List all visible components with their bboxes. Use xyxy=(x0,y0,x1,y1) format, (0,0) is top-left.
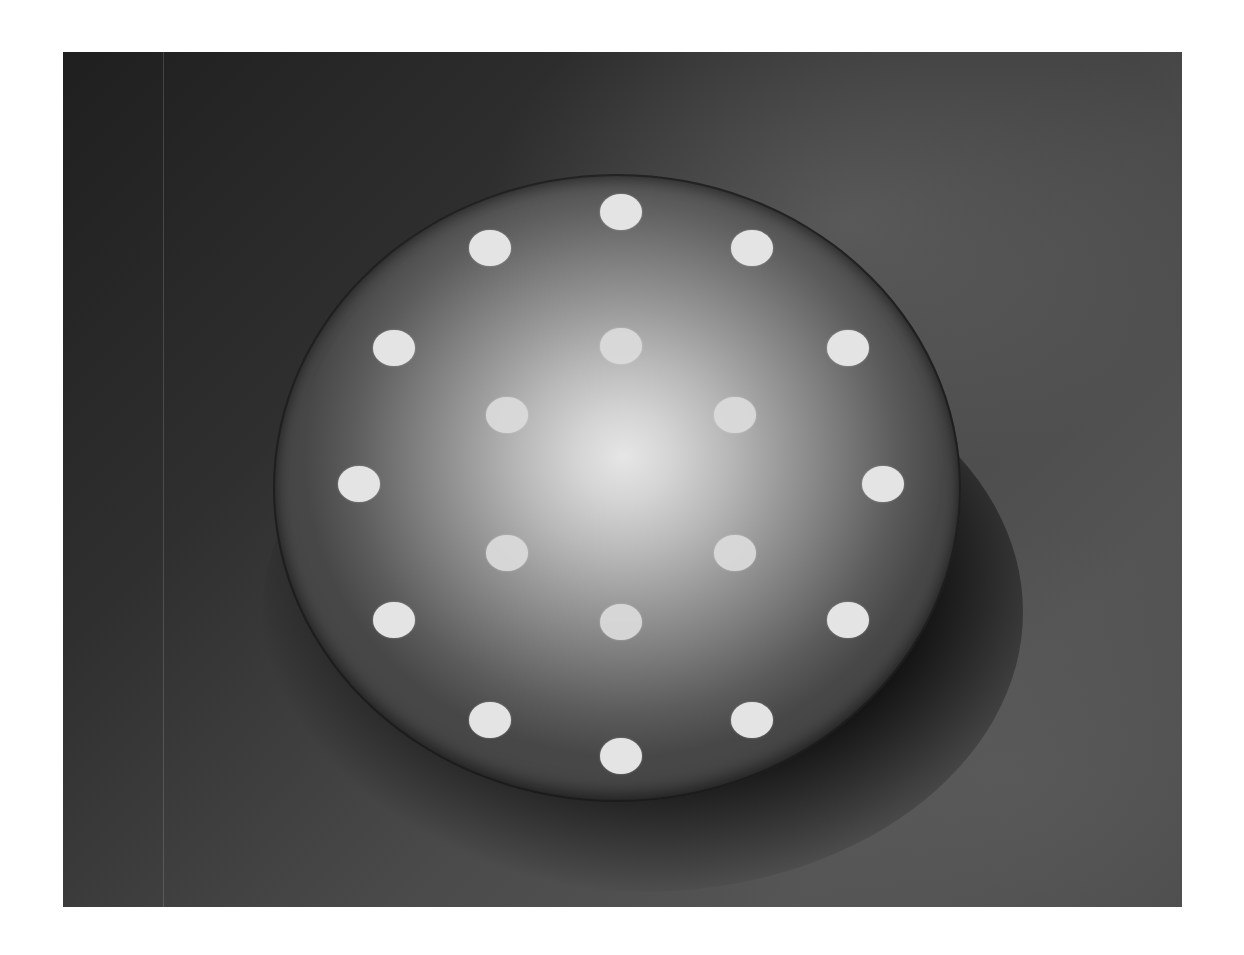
film-scratch xyxy=(163,52,164,907)
outer-dot xyxy=(373,602,415,638)
outer-dot xyxy=(827,602,869,638)
inner-dot xyxy=(486,397,528,433)
outer-dot xyxy=(469,702,511,738)
outer-dot xyxy=(827,330,869,366)
outer-dot xyxy=(862,466,904,502)
inner-dot xyxy=(600,604,642,640)
inner-dot xyxy=(486,535,528,571)
inner-dot xyxy=(600,328,642,364)
outer-dot xyxy=(731,702,773,738)
outer-dot xyxy=(338,466,380,502)
inner-dot xyxy=(714,535,756,571)
photograph: Domed disc with 12 outer dots and 6 inne… xyxy=(63,52,1182,907)
outer-dot xyxy=(600,738,642,774)
inner-dot xyxy=(714,397,756,433)
outer-dot xyxy=(373,330,415,366)
outer-dot xyxy=(600,194,642,230)
